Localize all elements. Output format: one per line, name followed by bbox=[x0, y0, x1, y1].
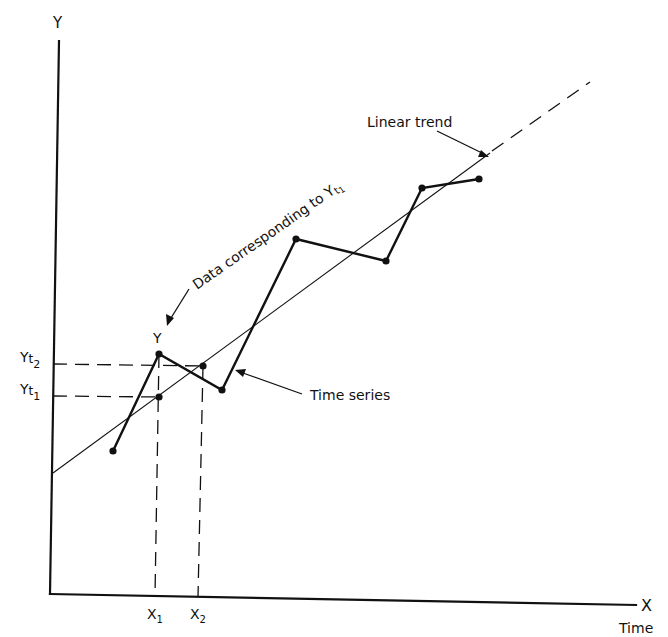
yt2-tick-label: Yt2 bbox=[19, 349, 40, 371]
x-axis-label: X bbox=[641, 596, 652, 615]
x1-tick-label: X1 bbox=[147, 606, 163, 625]
x2-tick-label: X2 bbox=[190, 606, 206, 625]
time-series-leader bbox=[243, 373, 302, 394]
data-corresponding-text: Data corresponding to Y bbox=[190, 182, 338, 293]
linear-trend-leader bbox=[437, 131, 482, 153]
data-point bbox=[155, 350, 162, 357]
time-series-annotation: Time series bbox=[309, 387, 390, 403]
data-point bbox=[109, 447, 116, 454]
time-series-arrowhead-icon bbox=[235, 369, 246, 377]
svg-text:Data corresponding to Yt1: Data corresponding to Yt1 bbox=[190, 177, 348, 295]
linear-trend-line bbox=[53, 153, 490, 473]
peak-point-label: Y bbox=[152, 330, 162, 346]
y-axis bbox=[50, 41, 59, 594]
data-point bbox=[292, 235, 299, 242]
time-series-trend-diagram: Y X Time X1 X2 Yt2 Yt1 Y Linear trend Ti bbox=[0, 0, 668, 637]
x-axis bbox=[50, 594, 636, 605]
yt1-tick-label: Yt1 bbox=[19, 381, 40, 403]
data-point bbox=[382, 257, 389, 264]
x1-guide-vertical bbox=[155, 354, 159, 596]
linear-trend-annotation: Linear trend bbox=[367, 114, 452, 130]
data-corresponding-annotation: Data corresponding to Yt1 bbox=[190, 177, 348, 295]
data-point bbox=[475, 175, 482, 182]
data-corresponding-leader bbox=[171, 289, 189, 318]
data-point bbox=[218, 386, 225, 393]
data-point bbox=[418, 184, 425, 191]
x-axis-caption: Time bbox=[618, 620, 653, 636]
linear-trend-extension bbox=[492, 82, 590, 151]
trend-point-yt2 bbox=[199, 362, 206, 369]
linear-trend-arrowhead-icon bbox=[478, 150, 489, 157]
y-axis-label: Y bbox=[52, 14, 63, 32]
yt1-guide-horizontal bbox=[53, 396, 159, 397]
x2-guide-vertical bbox=[198, 366, 203, 597]
trend-point-yt1 bbox=[155, 393, 162, 400]
